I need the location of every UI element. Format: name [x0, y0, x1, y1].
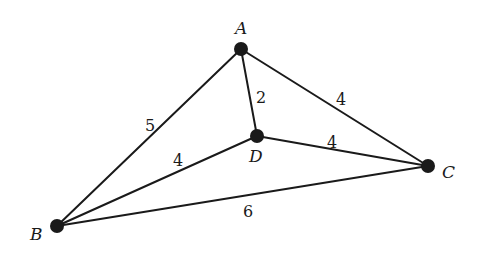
edge-weight-d-c: 4: [327, 133, 337, 152]
edge-weight-d-b: 4: [173, 151, 183, 170]
edge-a-d: [241, 49, 257, 136]
node-label-a: A: [233, 18, 247, 38]
node-label-b: B: [29, 224, 43, 244]
weighted-graph-diagram: 524446ABCD: [0, 0, 482, 258]
edges-layer: [57, 49, 428, 226]
node-label-d: D: [248, 146, 263, 166]
edge-weight-a-b: 5: [145, 116, 155, 135]
edge-weight-b-c: 6: [243, 202, 253, 221]
node-a: [234, 42, 248, 56]
node-d: [250, 129, 264, 143]
node-c: [421, 159, 435, 173]
edge-weight-a-d: 2: [256, 88, 266, 107]
edge-d-b: [57, 136, 257, 226]
edge-a-b: [57, 49, 241, 226]
node-b: [50, 219, 64, 233]
node-label-c: C: [442, 162, 455, 182]
edge-weight-a-c: 4: [336, 90, 346, 109]
